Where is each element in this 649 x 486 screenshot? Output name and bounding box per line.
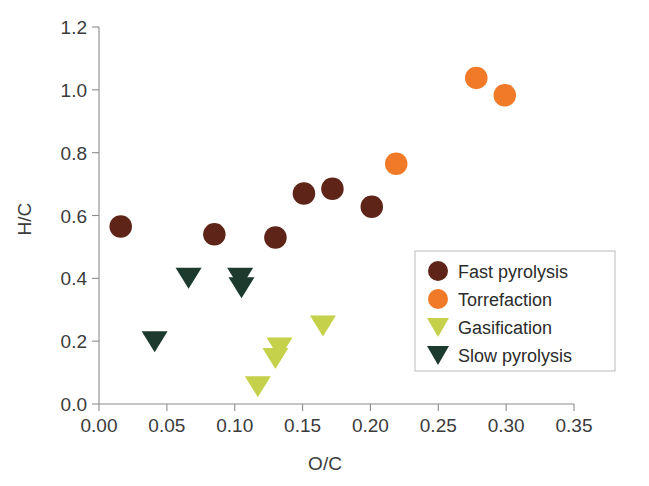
data-point-circle <box>293 182 316 205</box>
data-point-circle <box>465 67 488 90</box>
data-point-circle <box>494 84 517 107</box>
chart-legend: Fast pyrolysisTorrefactionGasificationSl… <box>415 251 615 371</box>
chart-background <box>0 0 649 486</box>
y-axis-tick-label: 0.8 <box>61 143 87 164</box>
y-axis-tick-label: 0.0 <box>61 394 87 415</box>
data-point-circle <box>203 223 226 246</box>
legend-item-label: Fast pyrolysis <box>458 262 568 282</box>
legend-item-label: Torrefaction <box>458 290 552 310</box>
x-axis-tick-label: 0.20 <box>352 415 389 436</box>
legend-marker-circle-icon <box>428 261 448 281</box>
x-axis-tick-label: 0.35 <box>556 415 593 436</box>
legend-item-label: Gasification <box>458 318 552 338</box>
y-axis-tick-label: 0.4 <box>61 268 88 289</box>
chart-svg: 0.00.20.40.60.81.01.2 0.000.050.100.150.… <box>0 0 649 486</box>
y-axis-tick-label: 1.2 <box>61 17 87 38</box>
x-axis-tick-label: 0.25 <box>420 415 457 436</box>
y-axis-tick-label: 0.2 <box>61 331 87 352</box>
x-axis-tick-label: 0.00 <box>81 415 118 436</box>
legend-item-label: Slow pyrolysis <box>458 346 572 366</box>
y-axis-tick-label: 1.0 <box>61 80 87 101</box>
data-point-circle <box>321 178 344 201</box>
x-axis-tick-label: 0.05 <box>148 415 185 436</box>
y-axis-tick-label: 0.6 <box>61 206 87 227</box>
data-point-circle <box>109 215 132 238</box>
x-axis-title: O/C <box>308 453 342 474</box>
scatter-chart-figure: 0.00.20.40.60.81.01.2 0.000.050.100.150.… <box>0 0 649 486</box>
x-axis-tick-label: 0.10 <box>216 415 253 436</box>
y-axis-title: H/C <box>14 203 35 236</box>
legend-marker-circle-icon <box>428 289 448 309</box>
data-point-circle <box>264 226 287 249</box>
data-point-circle <box>361 195 384 218</box>
data-point-circle <box>385 152 408 175</box>
x-axis-tick-label: 0.15 <box>284 415 321 436</box>
x-axis-tick-label: 0.30 <box>488 415 525 436</box>
